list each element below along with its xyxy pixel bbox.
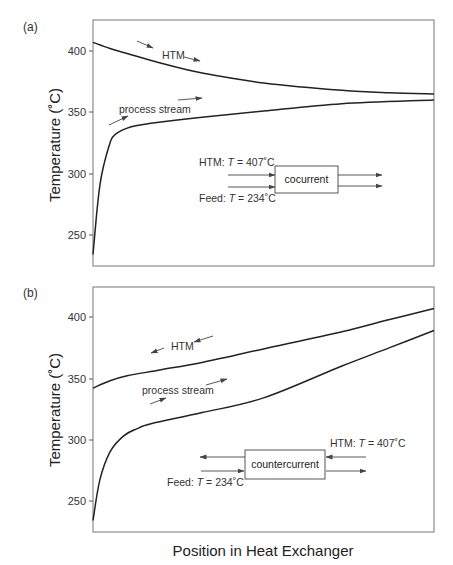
inset-feed-inlet-label: Feed: T = 234˚C: [199, 192, 276, 204]
panel-a-y-ticks: 400 350 300 250: [68, 45, 93, 241]
htm-curve: [93, 308, 434, 388]
panel-b: (b) 400 350 300 250 Temperature (˚C) HTM…: [23, 286, 434, 532]
tick-300: 300: [68, 168, 86, 180]
figure: (a) 400 350 300 250 Temperature (˚C) HTM…: [0, 0, 453, 565]
y-axis-label: Temperature (˚C): [46, 88, 63, 202]
process-stream-curve: [93, 331, 434, 521]
process-direction-arrow: [109, 116, 128, 125]
exchanger-box-label: cocurrent: [285, 173, 329, 185]
inset-htm-inlet-label: HTM: T = 407˚C: [199, 156, 275, 168]
panel-a: (a) 400 350 300 250 Temperature (˚C) HTM…: [23, 20, 434, 266]
htm-direction-arrow: [184, 57, 200, 61]
tick-250: 250: [68, 495, 86, 507]
htm-curve: [93, 42, 434, 94]
tick-400: 400: [68, 311, 86, 323]
tick-300: 300: [68, 434, 86, 446]
process-stream-curve: [93, 100, 434, 255]
process-stream-label: process stream: [119, 103, 191, 115]
panel-a-label: (a): [23, 20, 38, 34]
panel-b-y-ticks: 400 350 300 250: [68, 311, 93, 507]
process-stream-label: process stream: [142, 384, 214, 396]
tick-250: 250: [68, 229, 86, 241]
htm-direction-arrow: [194, 336, 213, 342]
countercurrent-inset: HTM: T = 407˚C countercurrent Feed: T = …: [167, 437, 406, 488]
panel-a-axes-frame: [93, 20, 434, 266]
y-axis-label: Temperature (˚C): [46, 353, 63, 467]
htm-direction-arrow: [151, 348, 164, 353]
inset-feed-inlet-label: Feed: T = 234˚C: [167, 476, 244, 488]
process-direction-arrow: [178, 98, 202, 100]
exchanger-box-label: countercurrent: [251, 458, 319, 470]
htm-direction-arrow: [137, 41, 153, 48]
htm-label: HTM: [162, 49, 185, 61]
tick-350: 350: [68, 373, 86, 385]
panel-b-label: (b): [23, 286, 38, 300]
htm-label: HTM: [171, 340, 194, 352]
process-direction-arrow: [150, 398, 166, 404]
tick-400: 400: [68, 45, 86, 57]
x-axis-label: Position in Heat Exchanger: [173, 542, 354, 559]
cocurrent-inset: HTM: T = 407˚C cocurrent Feed: T = 234˚C: [199, 156, 382, 204]
panel-b-axes-frame: [93, 287, 434, 532]
inset-htm-inlet-label: HTM: T = 407˚C: [330, 437, 406, 449]
tick-350: 350: [68, 106, 86, 118]
